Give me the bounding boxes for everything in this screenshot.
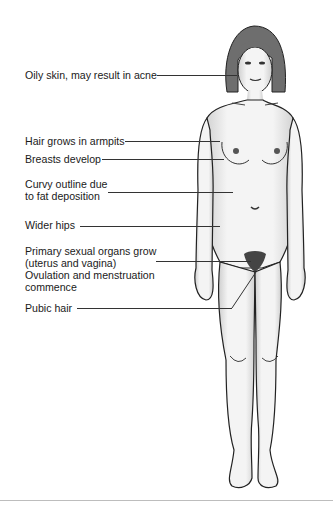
leader-line-curvy-outline [108,192,233,193]
label-breasts: Breasts develop [25,153,101,165]
left-arm [195,118,213,300]
label-primary-organs-line-2: (uterus and vagina) [25,257,156,269]
leader-line-breasts [102,159,224,160]
label-primary-organs-line-1: Primary sexual organs grow [25,245,156,257]
label-primary-organs: Primary sexual organs grow (uterus and v… [25,245,156,293]
leader-line-pubic-hair-diagonal [230,270,260,310]
label-curvy-outline-line-1: Curvy outline due [25,178,107,190]
leader-line-primary-organs [156,261,251,262]
leader-line-oily-skin [157,75,237,76]
label-oily-skin: Oily skin, may result in acne [25,69,157,81]
label-primary-organs-line-4: commence [25,281,156,293]
leader-line-wider-hips [80,226,220,227]
face [238,47,272,93]
leader-line-armpit-hair [125,141,220,142]
torso [204,100,296,268]
label-armpit-hair: Hair grows in armpits [25,135,125,147]
label-curvy-outline-line-2: to fat deposition [25,190,107,202]
label-primary-organs-line-3: Ovulation and menstruation [25,269,156,281]
bottom-divider [0,500,333,501]
leader-line-pubic-hair [77,308,232,309]
label-pubic-hair: Pubic hair [25,302,72,314]
label-curvy-outline: Curvy outline due to fat deposition [25,178,107,202]
right-arm [287,118,305,300]
label-wider-hips: Wider hips [25,219,75,231]
